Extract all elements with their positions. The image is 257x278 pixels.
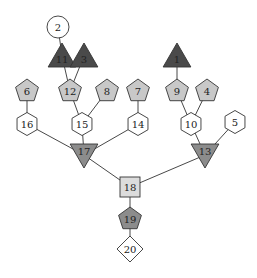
node-label: 19 xyxy=(124,214,137,225)
node-label: 14 xyxy=(132,119,145,130)
node-20[interactable]: 20 xyxy=(117,236,143,262)
node-2[interactable]: 2 xyxy=(47,16,69,38)
node-label: 16 xyxy=(21,119,34,130)
node-9[interactable]: 9 xyxy=(166,79,189,101)
node-12[interactable]: 12 xyxy=(59,79,82,101)
node-label: 20 xyxy=(124,244,137,255)
node-3[interactable]: 3 xyxy=(70,43,98,67)
node-label: 9 xyxy=(174,86,180,97)
node-label: 6 xyxy=(24,86,30,97)
node-18[interactable]: 18 xyxy=(120,177,140,197)
node-17[interactable]: 17 xyxy=(70,144,98,168)
node-16[interactable]: 16 xyxy=(17,113,37,136)
node-label: 10 xyxy=(185,119,198,130)
node-14[interactable]: 14 xyxy=(128,113,148,136)
nodes-layer: 2113161287941615141051713181920 xyxy=(16,16,245,262)
node-label: 15 xyxy=(76,119,89,130)
node-label: 5 xyxy=(232,117,238,128)
node-1[interactable]: 1 xyxy=(163,43,191,67)
node-label: 4 xyxy=(204,86,210,97)
node-label: 17 xyxy=(78,146,91,157)
node-13[interactable]: 13 xyxy=(191,144,219,168)
node-19[interactable]: 19 xyxy=(119,207,142,229)
edge-13-18 xyxy=(130,155,205,187)
node-4[interactable]: 4 xyxy=(196,79,219,101)
graph-canvas: 2113161287941615141051713181920 xyxy=(0,0,257,278)
node-label: 2 xyxy=(55,22,61,33)
node-8[interactable]: 8 xyxy=(96,79,119,101)
node-label: 11 xyxy=(56,54,69,65)
node-label: 12 xyxy=(64,86,77,97)
node-label: 13 xyxy=(199,146,212,157)
node-label: 1 xyxy=(174,54,180,65)
node-7[interactable]: 7 xyxy=(127,79,150,101)
node-15[interactable]: 15 xyxy=(72,113,92,136)
node-6[interactable]: 6 xyxy=(16,79,39,101)
node-label: 3 xyxy=(81,54,87,65)
node-label: 8 xyxy=(104,86,110,97)
node-label: 18 xyxy=(124,182,137,193)
node-label: 7 xyxy=(135,86,141,97)
node-10[interactable]: 10 xyxy=(181,113,201,136)
